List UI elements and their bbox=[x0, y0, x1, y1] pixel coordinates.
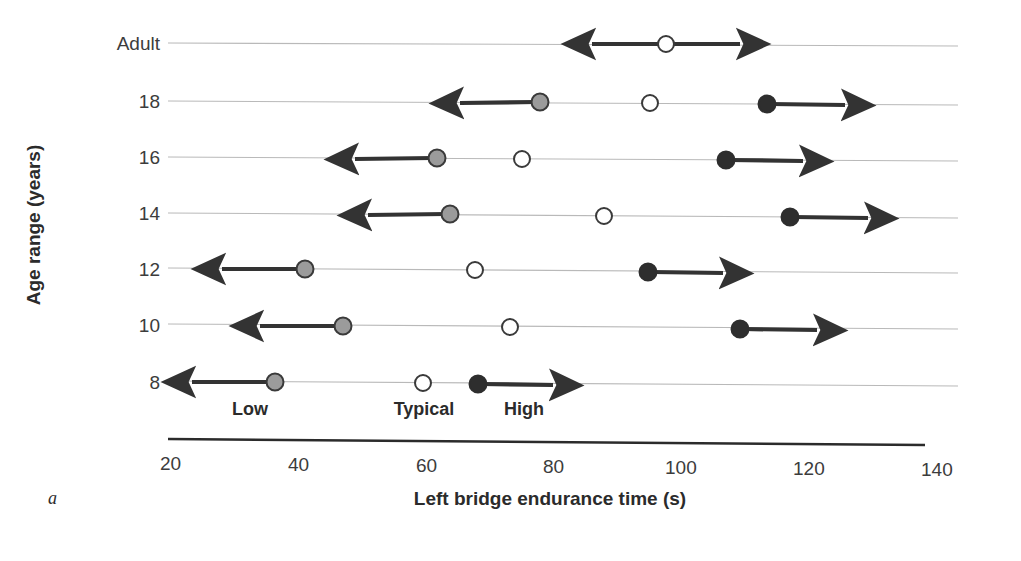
legend-label-low: Low bbox=[232, 399, 269, 419]
x-tick-80: 80 bbox=[543, 456, 564, 477]
marker-typical-8[interactable] bbox=[415, 375, 431, 391]
high-12-arrow bbox=[651, 272, 723, 273]
legend-label-typical: Typical bbox=[394, 399, 455, 419]
marker-low-16[interactable] bbox=[429, 150, 446, 167]
gridline-8 bbox=[168, 381, 958, 386]
marker-typical-12[interactable] bbox=[467, 262, 483, 278]
marker-typical-18[interactable] bbox=[642, 95, 658, 111]
y-tick-16: 16 bbox=[139, 147, 160, 168]
high-16-arrow bbox=[729, 160, 803, 161]
y-tick-12: 12 bbox=[139, 259, 160, 280]
row-18 bbox=[460, 94, 845, 113]
high-8-arrow bbox=[481, 384, 553, 385]
y-tick-18: 18 bbox=[139, 91, 160, 112]
marker-low-12[interactable] bbox=[297, 261, 314, 278]
high-10-arrow bbox=[743, 329, 817, 330]
x-tick-140: 140 bbox=[921, 459, 953, 480]
legend: Low Typical High bbox=[232, 399, 544, 419]
marker-typical-adult[interactable] bbox=[658, 36, 674, 52]
marker-low-10[interactable] bbox=[335, 318, 352, 335]
low-18-arrow bbox=[460, 102, 536, 103]
chart-figure: Adult 18 16 14 12 10 8 Age range (years) bbox=[0, 0, 1021, 561]
y-tick-8: 8 bbox=[149, 372, 160, 393]
row-adult bbox=[592, 36, 740, 52]
marker-high-12[interactable] bbox=[640, 264, 657, 281]
x-tick-100: 100 bbox=[665, 457, 697, 478]
marker-low-18[interactable] bbox=[532, 94, 549, 111]
marker-high-14[interactable] bbox=[782, 209, 799, 226]
marker-low-14[interactable] bbox=[442, 206, 459, 223]
legend-label-high: High bbox=[504, 399, 544, 419]
marker-high-10[interactable] bbox=[732, 321, 749, 338]
gridline-16 bbox=[168, 157, 958, 161]
x-tick-60: 60 bbox=[416, 455, 437, 476]
low-14-arrow bbox=[368, 214, 446, 215]
marker-high-16[interactable] bbox=[718, 152, 735, 169]
row-8 bbox=[192, 374, 553, 393]
y-axis-title: Age range (years) bbox=[23, 145, 44, 306]
high-18-arrow bbox=[770, 104, 845, 105]
marker-typical-10[interactable] bbox=[502, 319, 518, 335]
x-axis-tick-labels: 20 40 60 80 100 120 140 bbox=[160, 453, 953, 480]
endurance-time-chart: Adult 18 16 14 12 10 8 Age range (years) bbox=[0, 0, 1021, 561]
high-14-arrow bbox=[793, 217, 868, 218]
row-10 bbox=[260, 318, 817, 338]
y-tick-10: 10 bbox=[139, 315, 160, 336]
x-axis-line bbox=[168, 439, 925, 445]
marker-typical-16[interactable] bbox=[514, 151, 530, 167]
marker-typical-14[interactable] bbox=[596, 208, 612, 224]
x-tick-20: 20 bbox=[160, 453, 181, 474]
y-tick-14: 14 bbox=[139, 203, 161, 224]
x-tick-40: 40 bbox=[288, 454, 309, 475]
marker-low-8[interactable] bbox=[267, 374, 284, 391]
y-axis-tick-labels: Adult 18 16 14 12 10 8 bbox=[117, 33, 161, 393]
gridlines bbox=[168, 43, 958, 386]
x-axis-title: Left bridge endurance time (s) bbox=[414, 488, 686, 509]
gridline-adult bbox=[168, 43, 958, 46]
low-16-arrow bbox=[355, 158, 433, 159]
marker-high-8[interactable] bbox=[470, 376, 487, 393]
panel-letter: a bbox=[48, 488, 57, 508]
row-12 bbox=[222, 261, 723, 281]
y-tick-adult: Adult bbox=[117, 33, 161, 54]
x-tick-120: 120 bbox=[793, 458, 825, 479]
marker-high-18[interactable] bbox=[759, 96, 776, 113]
